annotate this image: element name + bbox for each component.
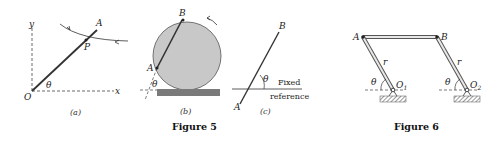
angle-arc-left xyxy=(381,79,386,90)
label-A: A xyxy=(352,32,360,42)
figure-canvas: y x O A P θ (a) B A θ (b) B A θ Fixed re… xyxy=(0,0,499,142)
ground xyxy=(157,89,220,96)
point-A-marker xyxy=(156,67,159,70)
caption-b: (b) xyxy=(180,107,191,116)
label-theta: θ xyxy=(263,74,269,84)
label-fixed: Fixed xyxy=(278,78,300,87)
joint-A xyxy=(361,35,365,39)
label-B: B xyxy=(440,32,448,42)
point-B-marker xyxy=(182,19,185,22)
label-x: x xyxy=(115,86,120,96)
figure5-panel-b: B A θ (b) xyxy=(140,8,221,116)
label-theta: θ xyxy=(46,80,52,90)
right-crank xyxy=(437,37,467,90)
figure6-caption: Figure 6 xyxy=(394,121,439,132)
label-B: B xyxy=(178,8,186,18)
pivot-O1-pin xyxy=(391,88,395,92)
label-O2: O2 xyxy=(470,80,481,91)
joint-B xyxy=(435,35,439,39)
caption-a: (a) xyxy=(70,108,81,117)
label-O: O xyxy=(24,92,32,102)
label-theta-left: θ xyxy=(371,77,377,87)
ground-O2 xyxy=(454,96,480,102)
label-A: A xyxy=(95,18,103,28)
left-crank xyxy=(363,37,393,90)
label-y: y xyxy=(28,19,35,29)
ground-O1 xyxy=(380,96,406,102)
figure6-four-bar-linkage: A B r r θ θ O1 O2 xyxy=(352,32,481,102)
caption-c: (c) xyxy=(260,107,271,116)
label-r-left: r xyxy=(383,57,388,67)
label-P: P xyxy=(83,42,91,52)
figure5-caption: Figure 5 xyxy=(172,121,217,132)
angle-arc-right xyxy=(455,79,460,90)
rod-OA xyxy=(32,30,97,91)
label-A: A xyxy=(146,63,154,73)
rotation-arrow-head xyxy=(207,16,210,20)
label-theta-right: θ xyxy=(445,77,451,87)
label-B: B xyxy=(278,21,286,31)
label-A: A xyxy=(233,102,241,112)
figure5-panel-c: B A θ Fixed reference (c) xyxy=(232,21,309,116)
label-r-right: r xyxy=(457,57,462,67)
figure5-panel-a: y x O A P θ (a) xyxy=(24,18,128,117)
label-O1: O1 xyxy=(396,80,407,91)
label-theta: θ xyxy=(152,79,158,89)
label-reference: reference xyxy=(270,92,309,101)
pivot-O2-pin xyxy=(465,88,469,92)
